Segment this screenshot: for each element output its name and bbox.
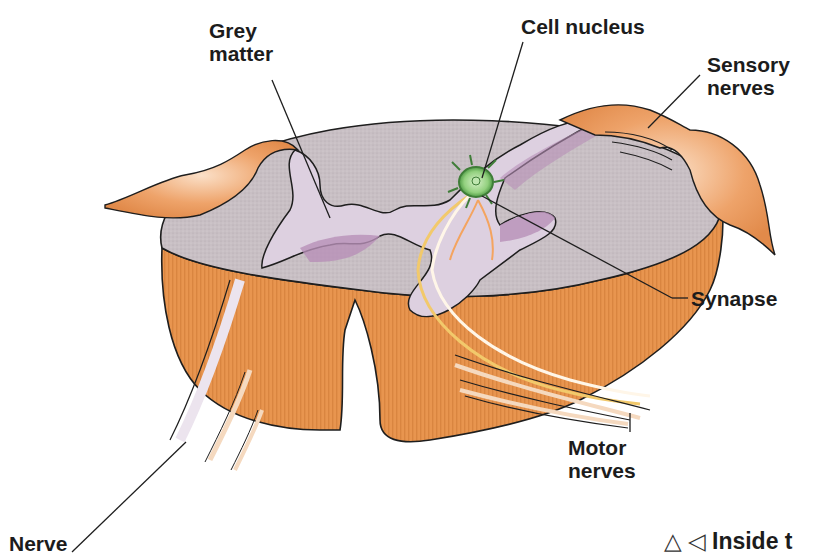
label-motor-nerves-line2: nerves: [568, 459, 636, 482]
label-sensory-nerves-line2: nerves: [707, 76, 790, 99]
label-nerve: Nerve: [9, 532, 67, 555]
label-nerve-line1: Nerve: [9, 532, 67, 555]
triangle-left-icon: ◁: [688, 528, 706, 554]
label-motor-nerves-line1: Motor: [568, 436, 636, 459]
label-grey-matter: Grey matter: [209, 19, 273, 65]
spinal-cord-diagram: Grey matter Cell nucleus Sensory nerves …: [0, 0, 823, 559]
caption: △◁Inside t: [664, 528, 793, 555]
label-sensory-nerves: Sensory nerves: [707, 53, 790, 99]
leader-nerve: [72, 442, 186, 552]
leader-sensory-nerves: [648, 75, 700, 128]
label-synapse-line1: Synapse: [691, 287, 777, 310]
label-motor-nerves: Motor nerves: [568, 436, 636, 482]
triangle-up-icon: △: [664, 528, 682, 554]
label-grey-matter-line2: matter: [209, 42, 273, 65]
spinal-cord-illustration: [0, 0, 823, 559]
label-grey-matter-line1: Grey: [209, 19, 273, 42]
label-synapse: Synapse: [691, 287, 777, 310]
label-cell-nucleus: Cell nucleus: [521, 15, 645, 38]
label-cell-nucleus-line1: Cell nucleus: [521, 15, 645, 38]
caption-text: Inside t: [712, 528, 793, 554]
label-sensory-nerves-line1: Sensory: [707, 53, 790, 76]
